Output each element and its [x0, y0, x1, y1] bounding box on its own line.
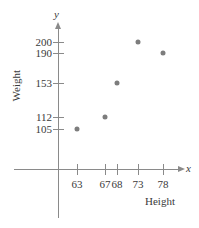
y-axis-tick-label: 105 — [36, 124, 53, 135]
y-axis-title: Weight — [10, 70, 22, 102]
x-axis-tick-label: 63 — [72, 179, 83, 190]
x-axis-tick — [105, 164, 106, 175]
x-axis-tick-label: 67 — [100, 179, 111, 190]
data-point — [115, 81, 120, 86]
scatter-plot-figure: y x Weight Height 200190153112105 636768… — [0, 0, 199, 228]
y-axis-tick-label: 112 — [36, 112, 52, 123]
data-point — [136, 40, 141, 45]
x-axis-variable-label: x — [186, 163, 191, 174]
y-axis-tick — [53, 129, 64, 130]
y-axis-variable-label: y — [54, 9, 59, 20]
x-axis-tick — [77, 164, 78, 175]
x-axis-tick-label: 68 — [112, 179, 123, 190]
y-axis-line — [58, 28, 59, 218]
x-axis-tick-label: 78 — [158, 179, 169, 190]
x-axis-tick-label: 73 — [133, 179, 144, 190]
x-axis-tick — [163, 164, 164, 175]
x-axis-tick — [117, 164, 118, 175]
data-point — [103, 115, 108, 120]
y-axis-arrow-icon — [55, 22, 61, 29]
x-axis-arrow-icon — [178, 166, 185, 172]
y-axis-tick — [53, 53, 64, 54]
data-point — [161, 51, 166, 56]
y-axis-tick-label: 190 — [36, 48, 53, 59]
y-axis-tick — [53, 42, 64, 43]
y-axis-tick — [53, 117, 64, 118]
x-axis-line — [14, 169, 181, 170]
x-axis-tick — [138, 164, 139, 175]
y-axis-tick — [53, 83, 64, 84]
data-point — [75, 127, 80, 132]
y-axis-tick-label: 153 — [36, 78, 53, 89]
x-axis-title: Height — [145, 195, 175, 207]
